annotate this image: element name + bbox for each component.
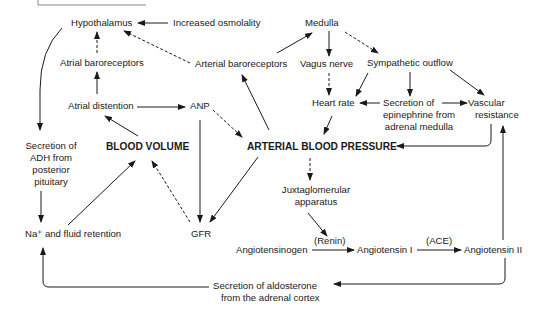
node-angiotensin-1: Angiotensin I [357,244,412,256]
node-vascular-resistance: Vascular resistance [468,97,519,121]
node-gfr: GFR [191,228,211,240]
node-arterial-blood-pressure: ARTERIAL BLOOD PRESSURE [247,141,397,153]
box-fragment [38,0,146,5]
node-aldosterone-secretion: Secretion of aldosterone from the adrena… [213,280,320,304]
node-anp: ANP [190,100,210,112]
node-medulla: Medulla [305,17,339,29]
node-arterial-baroreceptors: Arterial baroreceptors [195,58,287,70]
node-blood-volume: BLOOD VOLUME [106,141,189,153]
node-increased-osmolality: Increased osmolality [173,17,260,29]
node-sympathetic-outflow: Sympathetic outflow [367,57,453,69]
node-angiotensin-2: Angiotensin II [464,244,522,256]
node-epinephrine-secretion: Secretion of epinephrine from adrenal me… [383,97,455,133]
node-atrial-distention: Atrial distention [68,100,134,112]
node-na-fluid-retention: Na⁺ and fluid retention [25,228,121,240]
node-vagus-nerve: Vagus nerve [300,58,353,70]
node-heart-rate: Heart rate [312,97,355,109]
node-atrial-baroreceptors: Atrial baroreceptors [60,57,144,69]
edge-label-renin: (Renin) [314,235,345,246]
diagram-canvas: Hypothalamus Increased osmolality Medull… [0,0,537,313]
node-hypothalamus: Hypothalamus [71,17,132,29]
node-juxtaglomerular-apparatus: Juxtaglomerular apparatus [276,184,356,208]
edge-label-ace: (ACE) [426,235,452,246]
node-adh-secretion: Secretion of ADH from posterior pituitar… [20,140,82,188]
node-angiotensinogen: Angiotensinogen [236,244,307,256]
